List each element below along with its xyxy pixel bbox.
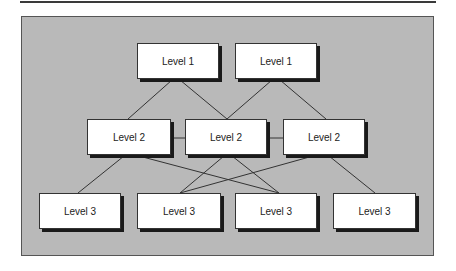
node-label: Level 1	[162, 56, 194, 67]
node-level3-a: Level 3	[39, 193, 121, 229]
edge-l2c-l3d	[329, 156, 375, 193]
edge-l1a-l2b	[180, 80, 227, 119]
node-label: Level 2	[210, 132, 242, 143]
node-label: Level 3	[260, 206, 292, 217]
node-label: Level 3	[64, 206, 96, 217]
node-level2-c: Level 2	[283, 119, 365, 155]
node-level1-b: Level 1	[235, 43, 317, 79]
node-label: Level 3	[163, 206, 195, 217]
node-label: Level 2	[308, 132, 340, 143]
edge-l2a-l3a	[78, 156, 124, 193]
edge-l2c-l3b	[180, 156, 313, 193]
edge-l1b-l2b	[227, 80, 272, 119]
node-level3-c: Level 3	[235, 193, 317, 229]
edge-l2a-l3c	[139, 156, 279, 193]
node-label: Level 3	[358, 206, 390, 217]
node-label: Level 1	[260, 56, 292, 67]
node-label: Level 2	[113, 132, 145, 143]
edge-l1b-l2c	[280, 80, 326, 119]
edge-l2b-l3b	[180, 156, 224, 193]
edge-l1a-l2a	[128, 80, 172, 119]
node-level2-a: Level 2	[87, 119, 171, 155]
node-level3-b: Level 3	[137, 193, 221, 229]
node-level2-b: Level 2	[185, 119, 267, 155]
node-level3-d: Level 3	[333, 193, 416, 229]
node-level1-a: Level 1	[137, 43, 219, 79]
edge-l2b-l3c	[232, 156, 279, 193]
